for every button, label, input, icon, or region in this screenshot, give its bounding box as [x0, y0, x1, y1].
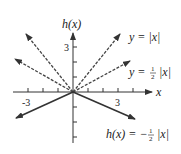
svg-text:2: 2	[149, 135, 153, 143]
svg-text:|x|: |x|	[159, 65, 171, 79]
x-axis-label: x	[155, 85, 162, 99]
x-tick-label-neg3: -3	[22, 97, 30, 108]
label-h-x: h(x) = − 1 2 |x|	[106, 127, 169, 143]
label-abs-x: y = |x|	[128, 30, 160, 44]
label-half-abs-x: y = 1 2 |x|	[128, 65, 171, 81]
y-tick-label-3: 3	[64, 42, 69, 53]
svg-text:|x|: |x|	[157, 127, 169, 141]
x-tick-label-3: 3	[115, 97, 120, 108]
svg-text:h(x) = −: h(x) = −	[106, 127, 148, 141]
graph-canvas: -3 3 3 x h(x) y = |x| y = 1 2 |x| h(x) =…	[0, 0, 181, 154]
svg-text:1: 1	[151, 65, 155, 73]
y-axis-label: h(x)	[62, 17, 81, 31]
x-axis	[13, 88, 152, 92]
svg-text:2: 2	[151, 73, 155, 81]
svg-text:y =: y =	[128, 65, 145, 79]
svg-text:1: 1	[149, 127, 153, 135]
